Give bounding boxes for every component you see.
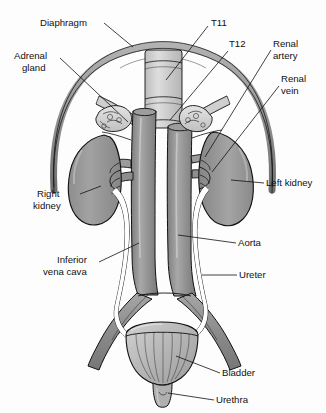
kidney-left bbox=[199, 132, 254, 226]
label-diaphragm: Diaphragm bbox=[40, 17, 87, 28]
label-t12: T12 bbox=[229, 38, 246, 49]
label-inferior-vena-cava: Inferior vena cava bbox=[43, 254, 90, 277]
anatomy-illustration: Diaphragm Adrenal gland T11 T12 Renal ar… bbox=[0, 0, 326, 413]
leader-urethra bbox=[168, 393, 214, 400]
inferior-vena-cava-structure bbox=[131, 108, 158, 295]
bladder-structure bbox=[126, 322, 198, 385]
label-right-kidney: Right kidney bbox=[33, 188, 62, 211]
leader-diaphragm bbox=[104, 23, 133, 47]
label-aorta: Aorta bbox=[238, 237, 262, 248]
label-ureter: Ureter bbox=[239, 269, 266, 280]
adrenal-gland-right bbox=[96, 106, 132, 132]
kidney-right bbox=[68, 135, 121, 225]
label-urethra: Urethra bbox=[216, 394, 249, 405]
label-adrenal-gland: Adrenal gland bbox=[14, 50, 50, 73]
label-renal-vein: Renal vein bbox=[281, 73, 309, 96]
aorta-structure bbox=[167, 123, 196, 296]
label-left-kidney: Left kidney bbox=[266, 177, 313, 188]
anatomy-figure: Diaphragm Adrenal gland T11 T12 Renal ar… bbox=[0, 0, 326, 413]
label-bladder: Bladder bbox=[222, 367, 256, 378]
label-t11: T11 bbox=[211, 17, 227, 28]
label-renal-artery: Renal artery bbox=[273, 38, 301, 61]
urethra-structure bbox=[153, 383, 172, 407]
